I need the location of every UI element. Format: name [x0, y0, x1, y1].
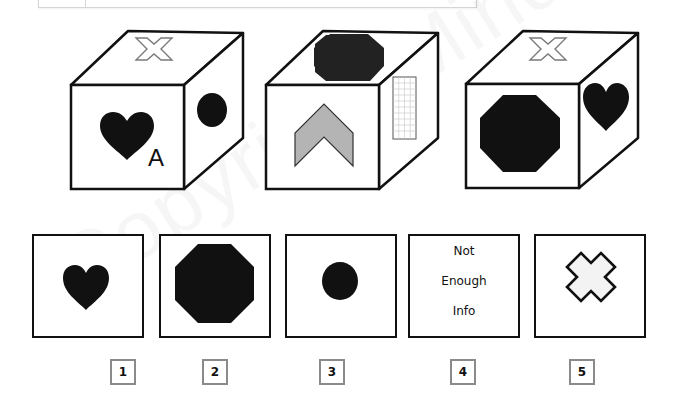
cube-3	[0, 0, 677, 403]
heart-icon	[0, 0, 677, 403]
answer-text-line-3: Info	[410, 304, 518, 318]
answer-text-line-1: Not	[410, 244, 518, 258]
chevron-up-icon	[0, 0, 677, 403]
cross-outline-icon	[536, 236, 648, 340]
answer-label-5[interactable]: 5	[569, 359, 595, 385]
answer-option-5[interactable]	[534, 234, 646, 338]
svg-text:A: A	[148, 144, 164, 171]
answer-label-2[interactable]: 2	[202, 359, 228, 385]
answer-label-4[interactable]: 4	[450, 359, 476, 385]
answer-option-4[interactable]: Not Enough Info	[408, 234, 520, 338]
table-divider	[85, 0, 86, 7]
octagon-icon	[0, 0, 677, 403]
grid-rectangle-icon	[0, 0, 677, 403]
circle-icon	[0, 0, 677, 403]
cross-outline-icon	[0, 0, 677, 403]
answer-option-1[interactable]	[32, 234, 144, 338]
answer-label-1[interactable]: 1	[110, 359, 136, 385]
octagon-top-icon	[0, 0, 677, 403]
heart-icon	[0, 0, 677, 403]
answer-option-3[interactable]	[285, 234, 397, 338]
letter-a-text: A	[0, 0, 677, 403]
cross-outline-icon	[0, 0, 677, 403]
cube-2	[0, 0, 677, 403]
answer-option-2[interactable]	[159, 234, 271, 338]
octagon-icon	[161, 236, 273, 340]
octagon-icon	[0, 0, 677, 403]
answer-text-line-2: Enough	[410, 274, 518, 288]
top-table-strip	[38, 0, 477, 8]
answer-label-3[interactable]: 3	[319, 359, 345, 385]
watermark: Copyright Mindmetrique	[0, 0, 677, 403]
heart-icon	[34, 236, 146, 340]
circle-icon	[287, 236, 399, 340]
cube-1: A	[0, 0, 677, 403]
